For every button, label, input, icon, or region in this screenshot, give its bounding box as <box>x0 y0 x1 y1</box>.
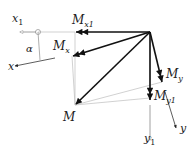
svg-text:α: α <box>26 43 33 54</box>
moment-diagram: x1 α x Mx1 Mx M My My1 y1 y <box>0 0 194 153</box>
x-axis <box>15 58 55 66</box>
svg-text:y1: y1 <box>143 132 155 147</box>
alpha-arc-ref <box>38 32 40 60</box>
vector-My <box>150 32 162 82</box>
svg-text:x1: x1 <box>12 12 23 27</box>
svg-text:Mx: Mx <box>52 39 70 55</box>
svg-text:M: M <box>62 110 76 124</box>
svg-text:x: x <box>8 60 15 73</box>
svg-text:y: y <box>179 122 187 135</box>
svg-text:My1: My1 <box>153 89 176 105</box>
moment-vectors <box>73 32 162 104</box>
svg-text:Mx1: Mx1 <box>71 13 94 29</box>
svg-text:My: My <box>165 67 183 83</box>
